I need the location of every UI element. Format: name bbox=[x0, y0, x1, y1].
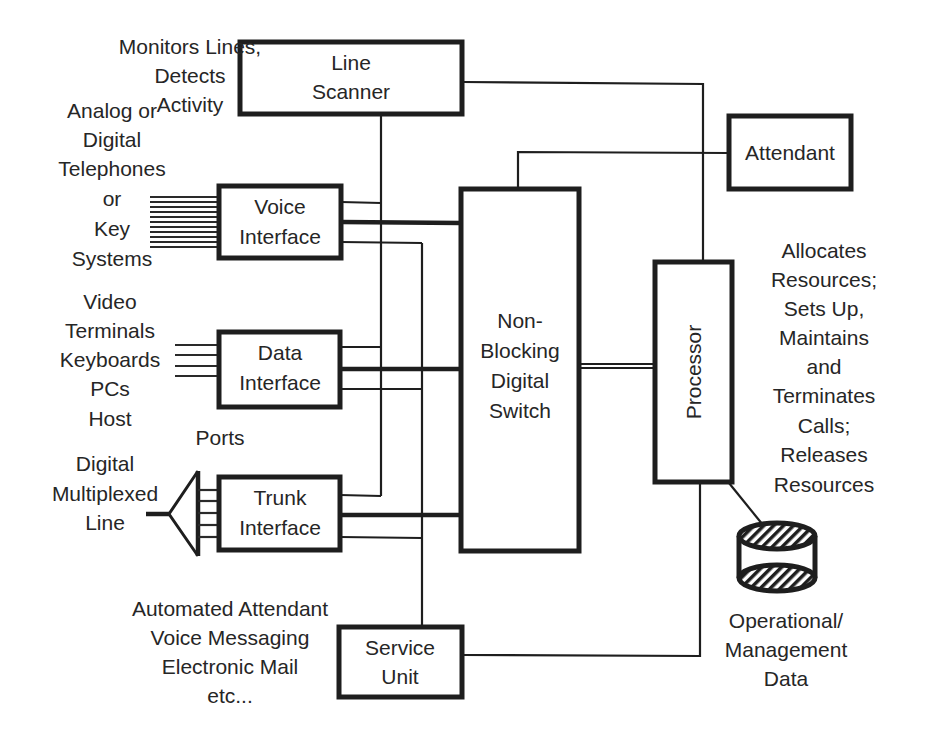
svg-text:Data: Data bbox=[764, 667, 809, 690]
switch-label-2: Blocking bbox=[480, 339, 559, 362]
svg-text:Maintains: Maintains bbox=[779, 326, 869, 349]
svg-text:Activity: Activity bbox=[157, 93, 224, 116]
svg-text:Host: Host bbox=[88, 407, 131, 430]
data-port-lines bbox=[175, 345, 219, 376]
svg-text:Management: Management bbox=[725, 638, 848, 661]
pbx-diagram: Line Scanner Voice Interface Data Interf… bbox=[0, 0, 927, 744]
svg-text:Resources: Resources bbox=[774, 473, 874, 496]
svg-text:Keyboards: Keyboards bbox=[60, 348, 160, 371]
attendant-label: Attendant bbox=[745, 141, 835, 164]
trunk-service-tap bbox=[340, 537, 422, 538]
svg-text:PCs: PCs bbox=[90, 377, 130, 400]
processor-block[interactable]: Processor bbox=[655, 262, 732, 482]
switch-label-1: Non- bbox=[497, 309, 543, 332]
line-scanner-block[interactable]: Line Scanner bbox=[240, 42, 462, 114]
svg-text:Detects: Detects bbox=[154, 64, 225, 87]
voice-switch-link bbox=[341, 222, 461, 223]
line-scanner-label-1: Line bbox=[331, 51, 371, 74]
switch-label-3: Digital bbox=[491, 369, 549, 392]
data-interface-block[interactable]: Data Interface bbox=[219, 332, 340, 407]
processor-database-link bbox=[729, 483, 763, 525]
svg-text:Key: Key bbox=[94, 217, 131, 240]
data-interface-label-2: Interface bbox=[239, 371, 321, 394]
service-note: Automated Attendant Voice Messaging Elec… bbox=[132, 597, 328, 707]
svg-text:Automated Attendant: Automated Attendant bbox=[132, 597, 328, 620]
switch-label-4: Switch bbox=[489, 399, 551, 422]
svg-text:Allocates: Allocates bbox=[781, 239, 866, 262]
ports-note: Ports bbox=[195, 426, 244, 449]
trunk-interface-label-1: Trunk bbox=[254, 486, 307, 509]
svg-text:Operational/: Operational/ bbox=[729, 609, 844, 632]
database-icon[interactable] bbox=[739, 523, 815, 591]
voice-interface-label-2: Interface bbox=[239, 225, 321, 248]
service-unit-label-2: Unit bbox=[381, 665, 419, 688]
svg-text:or: or bbox=[103, 187, 122, 210]
svg-text:Releases: Releases bbox=[780, 443, 868, 466]
svg-text:Systems: Systems bbox=[72, 247, 153, 270]
svg-text:Video: Video bbox=[83, 290, 136, 313]
service-unit-block[interactable]: Service Unit bbox=[339, 627, 462, 697]
voice-interface-block[interactable]: Voice Interface bbox=[219, 186, 341, 258]
svg-text:Telephones: Telephones bbox=[58, 157, 165, 180]
svg-text:and: and bbox=[806, 355, 841, 378]
svg-text:Line: Line bbox=[85, 511, 125, 534]
voice-note: Analog or Digital Telephones or Key Syst… bbox=[58, 99, 165, 270]
voice-port-lines bbox=[150, 197, 219, 247]
digital-switch-block[interactable]: Non- Blocking Digital Switch bbox=[461, 189, 579, 551]
svg-text:Resources;: Resources; bbox=[771, 268, 877, 291]
svg-text:Digital: Digital bbox=[83, 128, 141, 151]
processor-note: Allocates Resources; Sets Up, Maintains … bbox=[771, 239, 877, 496]
voice-service-tap bbox=[341, 242, 422, 243]
svg-text:Analog or: Analog or bbox=[67, 99, 157, 122]
processor-label: Processor bbox=[682, 325, 705, 420]
voice-scanner-tap bbox=[341, 202, 381, 203]
svg-text:Terminates: Terminates bbox=[773, 384, 876, 407]
svg-text:Terminals: Terminals bbox=[65, 319, 155, 342]
voice-interface-label-1: Voice bbox=[254, 195, 305, 218]
trunk-interface-block[interactable]: Trunk Interface bbox=[219, 477, 340, 550]
trunk-scanner-tap bbox=[340, 495, 381, 496]
service-unit-label-1: Service bbox=[365, 636, 435, 659]
svg-text:etc...: etc... bbox=[207, 684, 253, 707]
trunk-interface-label-2: Interface bbox=[239, 516, 321, 539]
data-interface-label-1: Data bbox=[258, 341, 303, 364]
svg-text:Multiplexed: Multiplexed bbox=[52, 482, 158, 505]
svg-text:Voice Messaging: Voice Messaging bbox=[151, 626, 310, 649]
svg-text:Calls;: Calls; bbox=[798, 414, 851, 437]
svg-text:Digital: Digital bbox=[76, 452, 134, 475]
svg-text:Electronic Mail: Electronic Mail bbox=[162, 655, 299, 678]
svg-text:Sets Up,: Sets Up, bbox=[784, 297, 865, 320]
data-note: Video Terminals Keyboards PCs Host bbox=[60, 290, 160, 430]
line-scanner-label-2: Scanner bbox=[312, 80, 390, 103]
trunk-note: Digital Multiplexed Line bbox=[52, 452, 158, 534]
database-note: Operational/ Management Data bbox=[725, 609, 848, 690]
svg-text:Monitors Lines,: Monitors Lines, bbox=[119, 35, 261, 58]
attendant-block[interactable]: Attendant bbox=[729, 116, 851, 189]
switch-attendant-link bbox=[518, 152, 729, 190]
